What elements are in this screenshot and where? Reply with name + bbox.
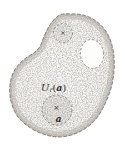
neighborhood-label: Ur(a) [41,82,66,95]
point-a-label: a [55,113,61,124]
cross-mark-top-icon: × [60,29,65,37]
cross-mark-center-icon: × [54,104,60,112]
set-diagram: × × a Ur(a) [0,0,125,150]
topology-figure: × × a Ur(a) [0,0,125,150]
neighborhood-label-paren-close: ) [62,82,66,93]
